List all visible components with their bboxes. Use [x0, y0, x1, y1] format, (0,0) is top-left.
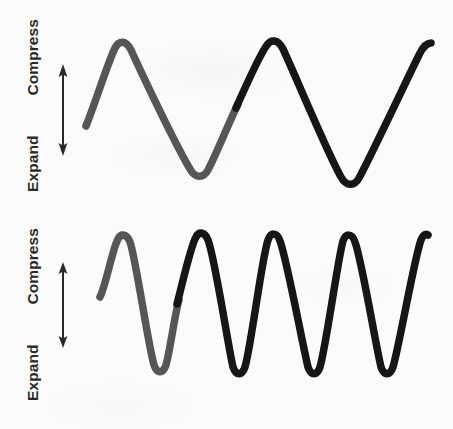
panel-high-frequency-wave: Expand Compress	[0, 215, 453, 429]
panel-low-frequency-wave: Expand Compress	[0, 0, 453, 215]
wave-figure: Expand Compress Expand Compress	[0, 0, 453, 429]
wave-segment-gray-top	[86, 42, 238, 176]
wave-segment-gray-bottom	[100, 235, 179, 372]
wave-segment-dark-bottom	[177, 233, 428, 374]
wave-segment-dark-top	[236, 41, 431, 184]
waveform-low-frequency	[0, 0, 453, 215]
waveform-high-frequency	[0, 215, 453, 429]
